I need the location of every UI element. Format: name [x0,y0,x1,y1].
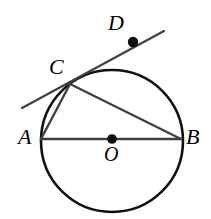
point-label-B: B [186,126,199,148]
point-label-O: O [104,144,118,164]
geometry-canvas [0,0,211,219]
chord-CA-shape [41,84,70,139]
geometry-figure: A B C D O [0,0,211,219]
point-label-C: C [49,56,64,78]
point-label-A: A [18,126,31,148]
point-label-D: D [108,12,124,34]
point-D-dot [128,37,138,47]
